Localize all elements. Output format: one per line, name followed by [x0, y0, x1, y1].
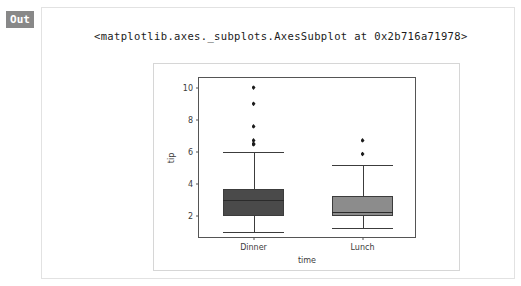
boxplot-outlier [252, 124, 256, 129]
object-repr-text: <matplotlib.axes._subplots.AxesSubplot a… [94, 29, 468, 43]
plot-area: 246810DinnerLunch [199, 78, 415, 237]
boxplot-cap [332, 228, 393, 229]
boxplot-median [332, 212, 393, 213]
y-axis-tick-mark [196, 215, 199, 216]
y-axis-tick-mark [196, 151, 199, 152]
y-axis-tick-mark [196, 119, 199, 120]
boxplot-cap [223, 152, 284, 153]
plot-axes: 246810DinnerLunch tip time [198, 77, 416, 238]
x-axis-label: time [298, 256, 316, 265]
boxplot-whisker [363, 165, 364, 196]
boxplot-whisker [363, 216, 364, 227]
output-prompt-badge: Out [6, 11, 34, 28]
x-axis-tick-mark [253, 237, 254, 240]
boxplot-outlier [252, 101, 256, 106]
boxplot-whisker [254, 216, 255, 232]
boxplot-outlier [252, 138, 256, 143]
boxplot-outlier [361, 152, 365, 157]
screenshot-root: Out <matplotlib.axes._subplots.AxesSubpl… [0, 0, 521, 286]
boxplot-whisker [254, 152, 255, 189]
y-axis-tick-mark [196, 183, 199, 184]
boxplot-cap [223, 232, 284, 233]
output-cell-area: <matplotlib.axes._subplots.AxesSubplot a… [41, 7, 515, 279]
x-axis-tick-label: Dinner [240, 243, 267, 252]
matplotlib-figure: 246810DinnerLunch tip time [153, 63, 460, 271]
boxplot-outlier [361, 138, 365, 143]
boxplot-median [223, 200, 284, 201]
boxplot-box [332, 196, 393, 217]
y-axis-label: tip [167, 152, 176, 162]
boxplot-outlier [252, 85, 256, 90]
x-axis-tick-label: Lunch [351, 243, 375, 252]
x-axis-tick-mark [362, 237, 363, 240]
y-axis-tick-mark [196, 87, 199, 88]
boxplot-cap [332, 165, 393, 166]
boxplot-box [223, 189, 284, 216]
